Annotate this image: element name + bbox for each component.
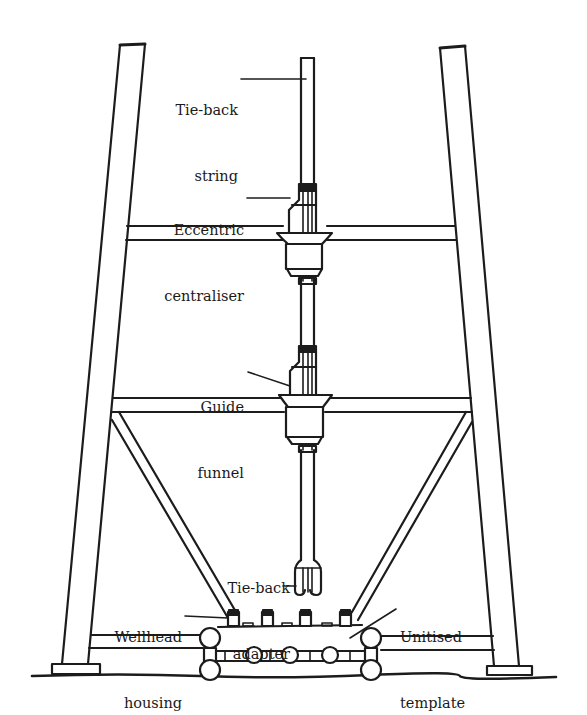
tieback-string: [301, 58, 314, 560]
label-line: housing: [90, 692, 182, 714]
eccentric-centraliser: [277, 184, 332, 284]
label-wellhead-housing: Wellhead housing: [90, 582, 182, 715]
label-line: adapter: [200, 643, 290, 665]
label-guide-funnel: Guide funnel: [170, 352, 244, 506]
guide-funnel-assembly: [279, 346, 332, 452]
wellhead-housing-4: [340, 610, 351, 626]
label-line: Wellhead: [90, 626, 182, 648]
right-jacket-leg: [440, 46, 532, 675]
label-line: Tie-back: [150, 99, 238, 121]
leader-guide-funnel: [248, 372, 290, 386]
label-line: template: [400, 692, 500, 714]
label-line: centraliser: [130, 285, 244, 307]
label-line: Unitised: [400, 626, 500, 648]
label-line: Guide: [170, 396, 244, 418]
label-line: funnel: [170, 462, 244, 484]
label-tieback-adapter: Tie-back adapter: [200, 533, 290, 687]
label-line: Tie-back: [200, 577, 290, 599]
left-jacket-leg: [52, 44, 145, 674]
label-line: Eccentric: [130, 219, 244, 241]
label-unitised-template: Unitised template: [400, 582, 500, 715]
tieback-adapter: [295, 560, 321, 595]
wellhead-housing-3: [300, 610, 311, 626]
label-eccentric-centraliser: Eccentric centraliser: [130, 175, 244, 329]
